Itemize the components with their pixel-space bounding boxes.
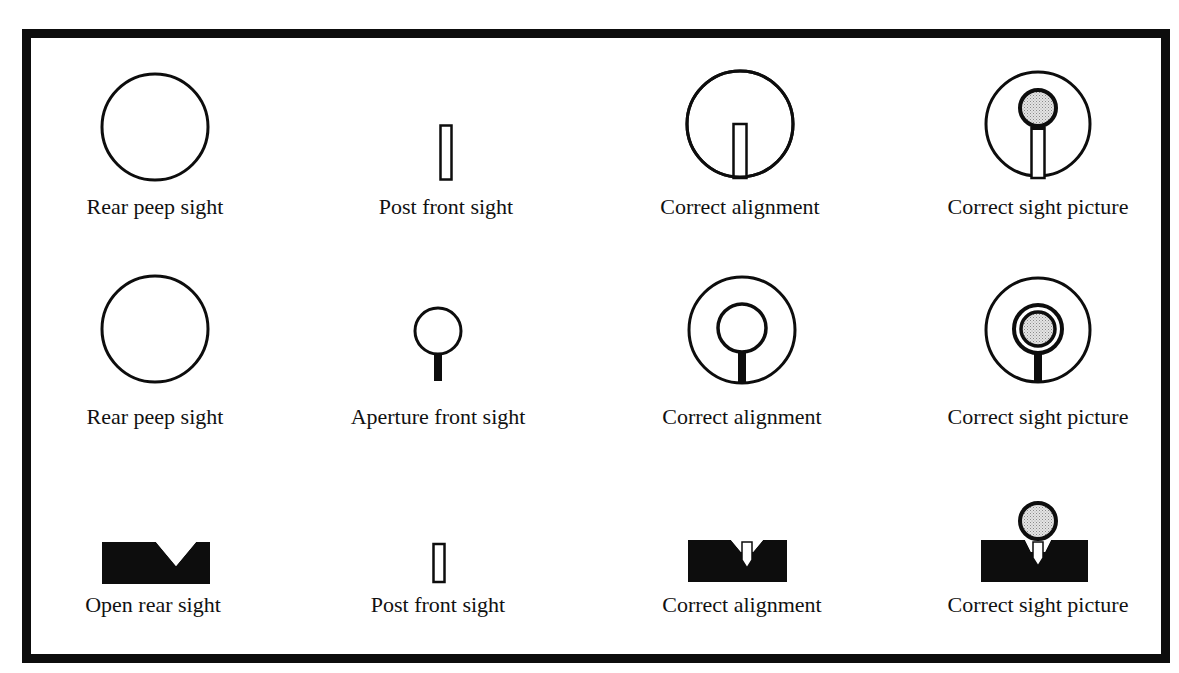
caption: Correct sight picture bbox=[913, 194, 1163, 220]
cell-post-front-sight-2: Post front sight bbox=[313, 480, 563, 673]
post-front-sight-icon bbox=[313, 480, 563, 590]
cell-correct-alignment-1: Correct alignment bbox=[615, 62, 865, 262]
post-front-sight-icon bbox=[321, 62, 571, 192]
cell-correct-sight-picture-2: Correct sight picture bbox=[895, 272, 1145, 472]
open-post-sight-picture-icon bbox=[895, 480, 1145, 590]
caption: Correct sight picture bbox=[913, 404, 1163, 430]
cell-correct-sight-picture-1: Correct sight picture bbox=[895, 62, 1145, 262]
aperture-front-sight-icon bbox=[313, 272, 563, 402]
caption: Rear peep sight bbox=[30, 404, 280, 430]
cell-correct-sight-picture-3: Correct sight picture bbox=[895, 480, 1145, 673]
caption: Aperture front sight bbox=[313, 404, 563, 430]
open-post-alignment-icon bbox=[617, 480, 867, 590]
peep-post-alignment-icon bbox=[615, 62, 865, 192]
caption: Correct sight picture bbox=[913, 592, 1163, 618]
cell-rear-peep-sight-2: Rear peep sight bbox=[30, 272, 280, 472]
cell-aperture-front-sight: Aperture front sight bbox=[313, 272, 563, 472]
caption: Correct alignment bbox=[617, 404, 867, 430]
peep-aperture-alignment-icon bbox=[617, 272, 867, 402]
rear-peep-sight-icon bbox=[30, 62, 280, 192]
rear-peep-sight-icon bbox=[30, 272, 280, 402]
cell-correct-alignment-3: Correct alignment bbox=[617, 480, 867, 673]
cell-post-front-sight-1: Post front sight bbox=[321, 62, 571, 262]
cell-correct-alignment-2: Correct alignment bbox=[617, 272, 867, 472]
peep-aperture-sight-picture-icon bbox=[895, 272, 1145, 402]
caption: Open rear sight bbox=[28, 592, 278, 618]
peep-post-sight-picture-icon bbox=[895, 62, 1145, 192]
cell-open-rear-sight: Open rear sight bbox=[30, 480, 280, 673]
caption: Correct alignment bbox=[615, 194, 865, 220]
caption: Post front sight bbox=[321, 194, 571, 220]
open-rear-sight-icon bbox=[30, 480, 280, 590]
cell-rear-peep-sight-1: Rear peep sight bbox=[30, 62, 280, 262]
caption: Post front sight bbox=[313, 592, 563, 618]
caption: Correct alignment bbox=[617, 592, 867, 618]
caption: Rear peep sight bbox=[30, 194, 280, 220]
